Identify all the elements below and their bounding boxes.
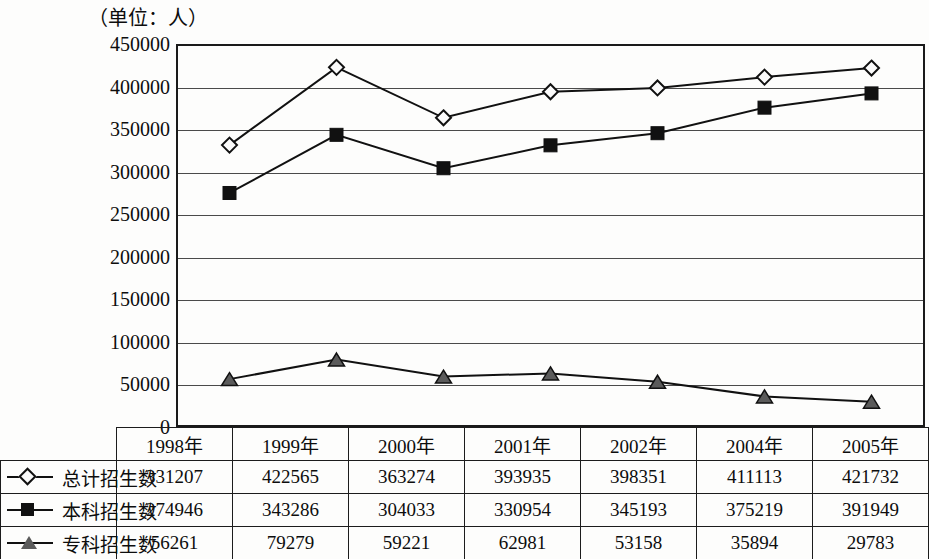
- square-marker-icon: [21, 503, 34, 516]
- table-row: 总计招生数33120742256536327439393539835141111…: [1, 461, 929, 494]
- legend-key: [7, 501, 53, 519]
- legend-cell: 总计招生数: [1, 461, 117, 494]
- table-cell-value: 411113: [697, 461, 813, 494]
- data-point-marker: [758, 101, 771, 114]
- y-axis-tick-label: 300000: [8, 162, 176, 182]
- table-cell-value: 422565: [233, 461, 349, 494]
- legend-entry: 专科招生数: [7, 530, 116, 557]
- legend-cell: 专科招生数: [1, 527, 117, 559]
- table-cell-value: 79279: [233, 527, 349, 559]
- y-axis-tick-label: 450000: [8, 34, 176, 54]
- legend-cell: 本科招生数: [1, 494, 117, 527]
- table-cell-value: 29783: [813, 527, 929, 559]
- legend-key: [7, 534, 53, 552]
- table-body: 总计招生数33120742256536327439393539835141111…: [1, 461, 929, 559]
- legend-entry: 总计招生数: [7, 464, 116, 491]
- triangle-marker-icon: [21, 536, 37, 549]
- table-cell-value: 345193: [581, 494, 697, 527]
- table-cell-value: 363274: [349, 461, 465, 494]
- y-axis-tick-label: 50000: [8, 374, 176, 394]
- data-point-marker: [330, 128, 343, 141]
- table-row: 专科招生数56261792795922162981531583589429783: [1, 527, 929, 559]
- data-point-marker: [222, 138, 237, 153]
- table-header-row: 1998年1999年2000年2001年2002年2004年2005年: [1, 428, 929, 461]
- legend-entry: 本科招生数: [7, 497, 116, 524]
- table-column-header-year: 2000年: [349, 428, 465, 461]
- y-axis-tick-label: 200000: [8, 247, 176, 267]
- y-axis-tick-label: 350000: [8, 119, 176, 139]
- table-cell-value: 53158: [581, 527, 697, 559]
- data-point-marker: [329, 60, 344, 75]
- diamond-marker-icon: [18, 467, 36, 485]
- data-point-marker: [222, 373, 238, 386]
- table-column-header-year: 2005年: [813, 428, 929, 461]
- table-cell-value: 304033: [349, 494, 465, 527]
- y-axis-tick-label: 250000: [8, 204, 176, 224]
- chart-screenshot: （单位：人） 050000100000150000200000250000300…: [0, 0, 929, 559]
- data-point-marker: [651, 127, 664, 140]
- table-corner-cell: [1, 428, 117, 461]
- data-point-marker: [650, 80, 665, 95]
- data-point-marker: [757, 70, 772, 85]
- y-axis-tick-label: 150000: [8, 289, 176, 309]
- data-point-marker: [437, 162, 450, 175]
- table-cell-value: 421732: [813, 461, 929, 494]
- table-cell-value: 59221: [349, 527, 465, 559]
- table-cell-value: 375219: [697, 494, 813, 527]
- data-point-marker: [864, 61, 879, 76]
- table-cell-value: 393935: [465, 461, 581, 494]
- table-column-header-year: 1999年: [233, 428, 349, 461]
- table-cell-value: 330954: [465, 494, 581, 527]
- table-cell-value: 398351: [581, 461, 697, 494]
- data-point-marker: [865, 87, 878, 100]
- table-row: 本科招生数27494634328630403333095434519337521…: [1, 494, 929, 527]
- data-point-marker: [223, 186, 236, 199]
- data-table: 1998年1999年2000年2001年2002年2004年2005年 总计招生…: [0, 427, 929, 559]
- legend-label: 总计招生数: [62, 464, 157, 491]
- table-cell-value: 343286: [233, 494, 349, 527]
- data-point-marker: [543, 84, 558, 99]
- table-column-header-year: 1998年: [117, 428, 233, 461]
- data-point-marker: [544, 139, 557, 152]
- table-cell-value: 391949: [813, 494, 929, 527]
- y-axis-tick-label: 100000: [8, 332, 176, 352]
- legend-key: [7, 468, 53, 486]
- table-column-header-year: 2002年: [581, 428, 697, 461]
- legend-label: 本科招生数: [62, 497, 157, 524]
- table-cell-value: 62981: [465, 527, 581, 559]
- table-column-header-year: 2001年: [465, 428, 581, 461]
- data-point-marker: [436, 110, 451, 125]
- table-cell-value: 35894: [697, 527, 813, 559]
- legend-label: 专科招生数: [62, 530, 157, 557]
- series-lines-layer: [176, 44, 925, 427]
- table-column-header-year: 2004年: [697, 428, 813, 461]
- y-axis-tick-label: 400000: [8, 77, 176, 97]
